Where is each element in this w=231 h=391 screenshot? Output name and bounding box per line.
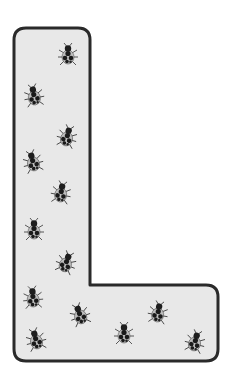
letter-l-shape — [14, 28, 218, 361]
ladybug-letter-l-figure — [0, 0, 231, 391]
